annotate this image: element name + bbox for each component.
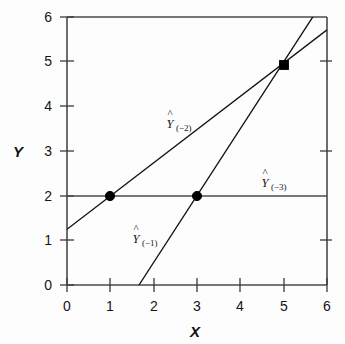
chart-figure: 6 5 4 3 2 1 0 0 1 2 3 4 5 6 Y X (0, 0, 345, 344)
series-label-subscript: (−1) (142, 238, 158, 248)
series-label-subscript: (−3) (271, 182, 287, 192)
x-tick-label: 0 (63, 298, 71, 314)
x-tick-label: 5 (280, 298, 288, 314)
x-tick-label: 6 (323, 298, 331, 314)
data-point (105, 191, 114, 200)
y-tick-label: 6 (44, 9, 52, 25)
y-tick-label: 2 (44, 188, 52, 204)
x-tick-label: 4 (236, 298, 244, 314)
y-tick-label: 3 (44, 143, 52, 159)
regression-lines-chart: 6 5 4 3 2 1 0 0 1 2 3 4 5 6 Y X (0, 0, 345, 344)
y-tick-label: 5 (44, 53, 52, 69)
data-point (280, 61, 289, 70)
x-tick-label: 3 (193, 298, 201, 314)
x-axis-title: X (189, 323, 201, 340)
x-tick-label: 2 (150, 298, 158, 314)
series-label-subscript: (−2) (176, 123, 192, 133)
y-tick-label: 1 (44, 232, 52, 248)
y-tick-label: 0 (44, 277, 52, 293)
y-tick-label: 4 (44, 98, 52, 114)
data-point (192, 191, 201, 200)
x-tick-label: 1 (106, 298, 114, 314)
